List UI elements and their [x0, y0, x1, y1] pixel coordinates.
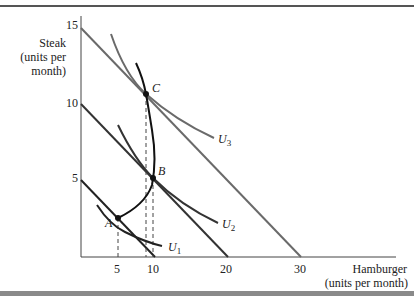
y-tick-10: 10 [66, 96, 78, 110]
u2-subscript: 2 [231, 223, 236, 233]
y-axis-label: Steak (units per month) [2, 36, 66, 78]
point-a-label: A [105, 216, 112, 230]
u3-label: U3 [218, 132, 231, 150]
point-b-label: B [158, 164, 165, 178]
point-a [115, 215, 121, 221]
budget-line-3 [81, 28, 301, 257]
u1-label: U1 [168, 240, 181, 258]
x-axis-label-line1: Hamburger [327, 262, 407, 276]
y-axis-label-line1: Steak [2, 36, 66, 50]
x-tick-30: 30 [294, 262, 306, 276]
x-axis-label-line2: (units per month) [308, 276, 408, 290]
indifference-curve-u3 [111, 34, 214, 138]
u3-letter: U [218, 132, 227, 146]
y-axis-label-line3: month) [2, 64, 66, 78]
u1-subscript: 1 [177, 246, 182, 256]
point-b [150, 175, 156, 181]
point-c [143, 91, 149, 97]
y-axis-label-line2: (units per [2, 50, 66, 64]
y-tick-5: 5 [72, 171, 78, 185]
u3-subscript: 3 [227, 138, 232, 148]
u2-letter: U [222, 217, 231, 231]
x-tick-10: 10 [147, 262, 159, 276]
u2-label: U2 [222, 217, 235, 235]
x-tick-5: 5 [114, 262, 120, 276]
point-c-label: C [152, 81, 160, 95]
y-tick-15: 15 [66, 18, 78, 32]
x-tick-20: 20 [220, 262, 232, 276]
u1-letter: U [168, 240, 177, 254]
